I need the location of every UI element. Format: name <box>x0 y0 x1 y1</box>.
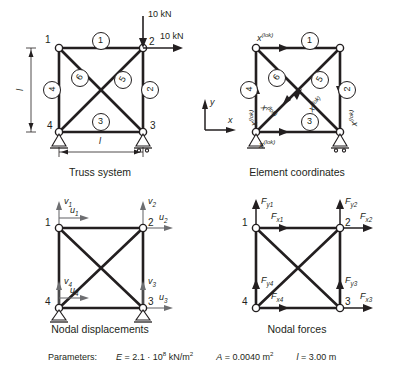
dimension-label-vertical: l <box>15 89 25 91</box>
force-label-Fy4: Fy4 <box>261 275 273 287</box>
force-label-Fy1: Fy1 <box>261 196 273 208</box>
element-label-3: 3 <box>307 116 312 126</box>
force-label-Fy3: Fy3 <box>345 275 357 287</box>
parameters-title: Parameters: <box>48 352 97 362</box>
figure-caption-nodal-forces: Nodal forces <box>197 323 397 335</box>
figure-caption-truss-system: Truss system <box>0 166 200 178</box>
dof-label-v2: v2 <box>148 196 156 208</box>
figure-truss-system: 1 2 3 4 1 2 3 4 5 6 10 kN 10 kN l l Trus… <box>0 0 200 185</box>
node-label-3: 3 <box>345 296 351 307</box>
element-label-2: 2 <box>145 86 155 91</box>
element-label-1: 1 <box>98 35 103 45</box>
horizontal-dimension <box>59 147 143 157</box>
local-axis-label-element-1: x(lok) <box>257 31 273 43</box>
local-axis-label-element-2: x(lok) <box>347 110 359 126</box>
node-label-4: 4 <box>45 296 51 307</box>
figure-element-coordinates: x(lok) x(lok) x(lok) x(lok) x(lok) x(lok… <box>197 0 397 185</box>
node-label-3: 3 <box>148 296 154 307</box>
dof-label-u2: u2 <box>159 212 168 224</box>
parameters-line: Parameters: E = 2.1 · 108 kN/m2 A = 0.00… <box>48 350 336 362</box>
figure-caption-element-coordinates: Element coordinates <box>197 166 397 178</box>
node-label-1: 1 <box>242 217 248 228</box>
node-label-1: 1 <box>45 217 51 228</box>
dof-label-u3: u3 <box>159 292 168 304</box>
vertical-dimension <box>26 48 36 132</box>
force-label-Fx1: Fx1 <box>271 211 283 223</box>
element-label-1: 1 <box>307 35 312 45</box>
node-label-2: 2 <box>149 36 155 47</box>
figure-nodal-displacements: 1 2 3 4 v1 u1 v2 u2 v3 u3 v4 u4 Nodal di… <box>0 190 200 340</box>
element-coordinates-drawing <box>197 0 397 165</box>
dof-label-u1: u1 <box>70 205 79 217</box>
global-axis-label-x: x <box>228 115 233 125</box>
element-label-4: 4 <box>47 86 57 91</box>
parameter-length: l = 3.00 m <box>296 352 336 362</box>
support-symbols <box>50 310 152 322</box>
element-label-3: 3 <box>98 116 103 126</box>
node-label-2: 2 <box>148 217 154 228</box>
parameter-youngs-modulus: E = 2.1 · 108 kN/m2 <box>116 352 193 362</box>
dof-label-v3: v3 <box>148 276 156 288</box>
force-label-Fy2: Fy2 <box>345 196 357 208</box>
element-label-4: 4 <box>244 86 254 91</box>
dimension-label-horizontal: l <box>99 136 101 146</box>
figure-caption-nodal-displacements: Nodal displacements <box>0 323 200 335</box>
truss-members <box>256 228 340 308</box>
force-label-Fx3: Fx3 <box>360 291 372 303</box>
local-axis-label-element-3: x(lok) <box>259 138 275 150</box>
global-axis-label-y: y <box>210 97 215 107</box>
nodal-displacements-drawing <box>0 190 200 320</box>
node-label-1: 1 <box>45 34 51 45</box>
node-label-3: 3 <box>150 120 156 131</box>
local-axis-label-element-4: x(lok) <box>247 110 259 126</box>
dof-label-u4: u4 <box>70 285 79 297</box>
support-symbols <box>50 134 152 152</box>
figure-nodal-forces: 1 2 3 4 Fy1 Fx1 Fy2 Fx2 Fy3 Fx3 Fy4 Fx4 … <box>197 190 397 340</box>
element-label-2: 2 <box>342 86 352 91</box>
load-label-vertical: 10 kN <box>148 9 172 19</box>
node-label-4: 4 <box>242 296 248 307</box>
force-label-Fx2: Fx2 <box>360 211 372 223</box>
force-label-Fx4: Fx4 <box>271 291 283 303</box>
parameter-area: A = 0.0040 m2 <box>216 352 273 362</box>
node-label-2: 2 <box>345 217 351 228</box>
node-label-4: 4 <box>47 120 53 131</box>
load-label-horizontal: 10 kN <box>160 31 184 41</box>
